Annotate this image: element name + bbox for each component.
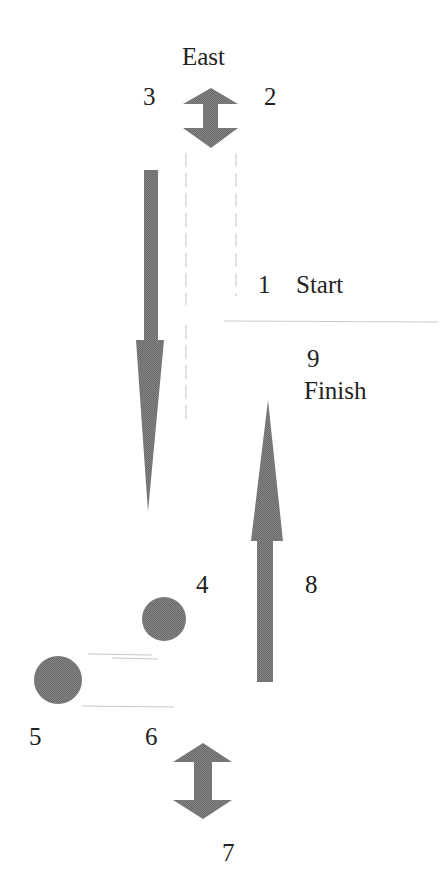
label-point-8: 8 xyxy=(305,572,318,597)
label-point-6: 6 xyxy=(145,724,158,749)
route-diagram xyxy=(0,0,446,891)
label-point-4: 4 xyxy=(196,572,209,597)
label-point-3: 3 xyxy=(143,84,156,109)
arrow-up-icon xyxy=(251,400,283,682)
circle-marker-4 xyxy=(142,597,186,641)
start-line xyxy=(224,321,438,322)
label-point-1: 1 xyxy=(258,272,271,297)
label-start: Start xyxy=(296,272,343,297)
label-point-2: 2 xyxy=(264,84,277,109)
label-point-7: 7 xyxy=(222,840,235,865)
arrow-down-icon xyxy=(136,170,164,512)
label-point-5: 5 xyxy=(29,724,42,749)
double-arrow-up-down-icon xyxy=(183,88,238,148)
line-between-circles-upper xyxy=(88,654,152,655)
double-arrow-up-down-icon xyxy=(173,743,232,819)
label-finish: Finish xyxy=(304,378,367,403)
circle-marker-5 xyxy=(34,656,82,704)
label-point-9: 9 xyxy=(307,346,320,371)
label-east: East xyxy=(182,44,225,69)
line-between-circles-upper-2 xyxy=(112,658,158,659)
line-between-circles-lower xyxy=(82,706,174,707)
